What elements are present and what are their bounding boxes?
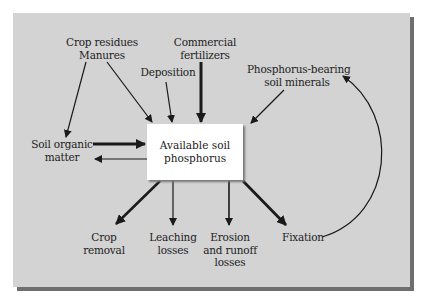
label-crop-removal: Crop removal [82, 231, 126, 256]
label-erosion-runoff: Erosion and runoff losses [202, 231, 258, 269]
label-soil-organic-matter: Soil organic matter [30, 138, 94, 163]
arrow-center-to-fixation [243, 181, 286, 225]
label-deposition: Deposition [138, 66, 198, 79]
arrow-deposition-to-center [166, 82, 172, 122]
available-soil-phosphorus-box: Available soil phosphorus [147, 124, 243, 180]
label-phosphorus-minerals: Phosphorus-bearing soil minerals [247, 63, 347, 88]
arrow-center-to-crop-removal [116, 181, 160, 224]
label-commercial-fertilizers: Commercial fertilizers [170, 36, 240, 61]
label-crop-residues: Crop residues Manures [62, 36, 142, 61]
label-fixation: Fixation [281, 231, 325, 244]
arrow-fixation-to-minerals [322, 76, 382, 237]
center-label-line1: Available soil [160, 139, 230, 152]
arrow-residues-to-organic [66, 62, 86, 137]
label-leaching-losses: Leaching losses [147, 231, 199, 256]
center-label-line2: phosphorus [160, 152, 230, 165]
arrow-minerals-to-center [251, 90, 284, 123]
